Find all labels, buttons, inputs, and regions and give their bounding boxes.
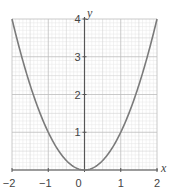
x-tick-label: −1 bbox=[39, 177, 52, 189]
x-tick-label: 2 bbox=[154, 177, 160, 189]
x-tick-label: 1 bbox=[118, 177, 124, 189]
y-tick-label: 1 bbox=[74, 126, 80, 138]
x-tick-label: 0 bbox=[75, 177, 81, 189]
y-tick-label: 4 bbox=[74, 13, 80, 25]
x-axis-label: x bbox=[160, 161, 167, 175]
x-tick-label: −2 bbox=[3, 177, 16, 189]
y-axis-label: y bbox=[86, 6, 93, 20]
parabola-chart: −2−1012 1234 x y bbox=[0, 0, 169, 194]
y-tick-label: 2 bbox=[74, 89, 80, 101]
y-tick-label: 3 bbox=[74, 51, 80, 63]
x-tick-labels: −2−1012 bbox=[3, 177, 160, 189]
